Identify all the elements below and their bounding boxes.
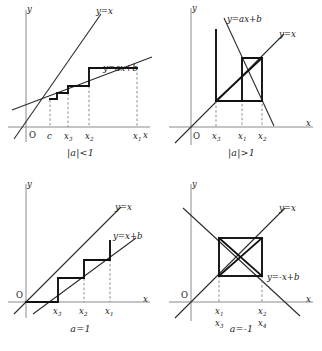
line-y-equals-minus-x-plus-b (183, 208, 300, 316)
x-axis-label: x (306, 294, 311, 304)
y-axis-label: y (191, 179, 197, 189)
origin-label: O (29, 130, 36, 140)
cobweb-figure-grid: y x O y=x y=ax+b c x 3 x 2 x 1 |a|<1 (0, 0, 322, 351)
x-tick-sub-x1: 1 (220, 311, 224, 317)
label-line-y-equals-minus-x-plus-b: y=-x+b (266, 272, 300, 282)
x-tick-sub-x3: 3 (217, 136, 221, 142)
x-tick-sub-x2: 2 (89, 136, 94, 142)
x-axis-label: x (143, 294, 148, 304)
x-tick-sub-x1: 1 (243, 136, 247, 142)
x-tick-sub-x2: 2 (262, 136, 267, 142)
caption-abs-a-greater-than-1: |a|>1 (161, 147, 322, 158)
x-tick-label-c: c (47, 131, 52, 141)
origin-label: O (16, 290, 23, 300)
x-tick-sub-x2: 2 (262, 311, 267, 317)
line-y-equals-x (14, 14, 101, 139)
y-axis-label: y (191, 3, 197, 13)
caption-a-equals-1: a=1 (0, 323, 161, 334)
x-tick-sub-x2: 2 (83, 311, 88, 317)
label-line-y-equals-x: y=x (278, 29, 296, 39)
x-tick-sub-x1: 1 (138, 136, 142, 142)
label-line-y-equals-x: y=x (95, 6, 113, 16)
label-line-y-equals-ax-plus-b: y=ax+b (226, 14, 262, 24)
cobweb-diagonal (216, 58, 262, 101)
label-line-y-equals-ax-plus-b: y=ax+b (102, 63, 138, 73)
x-tick-sub-x3: 3 (58, 311, 62, 317)
y-axis-label: y (26, 4, 32, 14)
x-tick-sub-x1: 1 (110, 311, 114, 317)
label-line-y-equals-x: y=x (114, 202, 132, 212)
y-axis-label: y (26, 179, 32, 189)
line-y-equals-ax-plus-b (224, 18, 274, 126)
origin-label: O (181, 290, 188, 300)
cobweb-path (26, 241, 110, 302)
caption-abs-a-less-than-1: |a|<1 (0, 147, 161, 158)
label-line-y-equals-x: y=x (278, 203, 296, 213)
x-axis-label: x (143, 130, 148, 140)
label-line-y-equals-x-plus-b: y=x+b (112, 231, 143, 241)
x-axis-label: x (306, 118, 311, 128)
origin-label: O (193, 131, 200, 141)
x-tick-sub-x3: 3 (69, 136, 73, 142)
caption-a-equals-minus-1: a=-1 (161, 323, 322, 334)
